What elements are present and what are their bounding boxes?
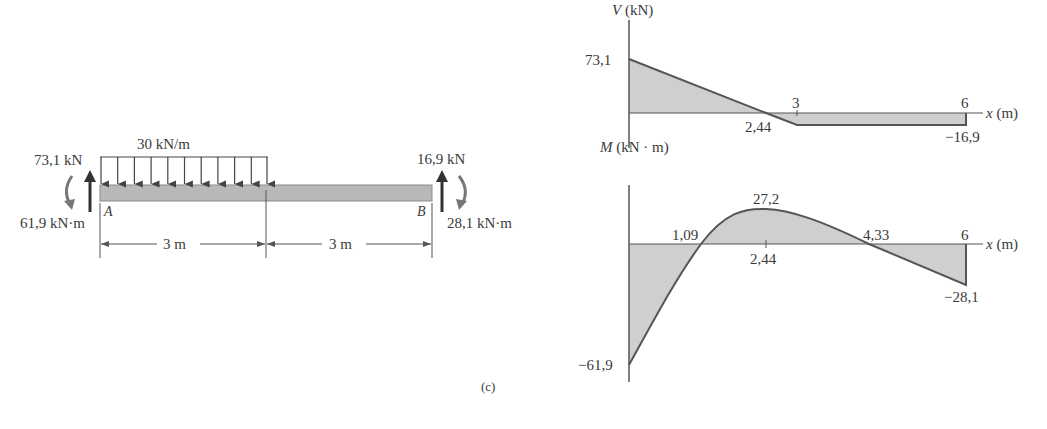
moment-x-var: x <box>986 236 993 252</box>
shear-axis-var: V <box>612 2 621 18</box>
moment-x-unit: (m) <box>993 236 1018 252</box>
beam-figure <box>64 157 467 258</box>
shear-max-label: 73,1 <box>585 53 611 68</box>
moment-start-label: −61,9 <box>578 358 613 373</box>
shear-x3-label: 3 <box>792 96 800 111</box>
moment-arrow-left <box>64 176 75 210</box>
point-a-label: A <box>104 205 113 219</box>
shear-x-var: x <box>986 105 993 121</box>
moment-peak-x-label: 2,44 <box>750 252 776 267</box>
moment-diagram <box>629 185 983 382</box>
reaction-force-arrow-left <box>84 170 96 212</box>
moment-peak-label: 27,2 <box>753 192 779 207</box>
moment-axis-unit: (kN · m) <box>613 139 669 155</box>
left-reaction-force-label: 73,1 kN <box>34 153 82 168</box>
shear-x-unit: (m) <box>993 105 1018 121</box>
dimension-label-1: 3 m <box>163 237 186 252</box>
shear-area-negative <box>766 113 966 125</box>
dimension-label-2: 3 m <box>329 237 352 252</box>
figure-caption: (c) <box>481 380 495 393</box>
left-reaction-moment-label: 61,9 kN·m <box>20 216 85 231</box>
moment-zero1-label: 1,09 <box>672 228 698 243</box>
moment-zero2-label: 4,33 <box>863 228 889 243</box>
diagram-canvas <box>0 0 1047 429</box>
right-reaction-moment-label: 28,1 kN·m <box>447 216 512 231</box>
right-reaction-force-label: 16,9 kN <box>417 152 465 167</box>
distributed-load <box>100 157 268 184</box>
reaction-force-arrow-right <box>436 170 448 212</box>
moment-arrow-right <box>456 176 467 210</box>
moment-x-axis-label: x (m) <box>986 237 1018 252</box>
shear-x-axis-label: x (m) <box>986 106 1018 121</box>
shear-min-label: −16,9 <box>945 130 980 145</box>
moment-axis-label: M (kN · m) <box>600 140 669 155</box>
shear-zero-cross-label: 2,44 <box>745 120 771 135</box>
shear-axis-label: V (kN) <box>612 3 653 18</box>
point-b-label: B <box>417 205 426 219</box>
moment-end-label: −28,1 <box>944 290 979 305</box>
shear-diagram <box>629 20 983 148</box>
shear-axis-unit: (kN) <box>621 2 653 18</box>
shear-x6-label: 6 <box>961 96 969 111</box>
distributed-load-label: 30 kN/m <box>137 137 190 152</box>
moment-axis-var: M <box>600 139 613 155</box>
moment-x6-label: 6 <box>961 228 969 243</box>
